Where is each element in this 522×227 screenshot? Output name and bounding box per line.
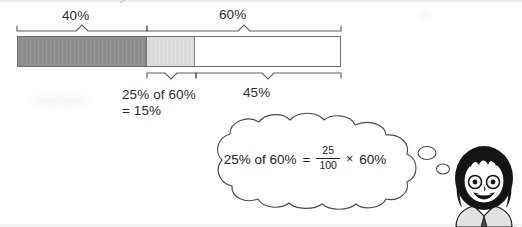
student-girl-illustration (446, 136, 522, 227)
equation-left: 25% of 60% (224, 152, 297, 167)
fraction-numerator: 25 (319, 145, 337, 156)
label-top-40-percent: 40% (62, 8, 89, 23)
bracket-top-40 (17, 25, 147, 31)
scan-artifact-smudge (420, 12, 430, 18)
equation-equals: = (303, 152, 311, 167)
equation: 25% of 60% = 25 100 × 60% (224, 146, 387, 172)
girl-pupil-right (491, 180, 496, 185)
scan-artifact-bottom (0, 224, 522, 227)
percentage-bar (17, 36, 341, 67)
bracket-bottom-45 (196, 73, 341, 79)
label-top-60-percent: 60% (219, 7, 246, 22)
label-bottom-25-of-60: 25% of 60% (122, 87, 196, 102)
thought-bubble-content: 25% of 60% = 25 100 × 60% (186, 112, 436, 210)
fraction-25-over-100: 25 100 (316, 145, 340, 171)
label-bottom-45: 45% (243, 85, 270, 100)
thought-trail-circle-large (418, 147, 436, 160)
fraction-denominator: 100 (316, 160, 340, 171)
bracket-bottom-25-of-60 (147, 73, 196, 79)
diagram-canvas: 40% 60% 25% of 60% = 15% 45% 25% of 60% (0, 0, 522, 227)
bar-segment-white-45 (195, 37, 340, 66)
label-bottom-equals-15: = 15% (122, 103, 161, 118)
girl-pupil-left (473, 180, 478, 185)
equation-times-sign: × (346, 152, 353, 166)
bracket-top-60 (147, 25, 341, 31)
bar-segment-dark-40 (18, 37, 147, 66)
scan-artifact-top (0, 0, 522, 2)
bar-segment-light-15 (147, 37, 195, 66)
scan-artifact-smudge-2 (30, 96, 90, 106)
equation-right: 60% (359, 152, 386, 167)
thought-bubble: 25% of 60% = 25 100 × 60% (186, 112, 436, 210)
